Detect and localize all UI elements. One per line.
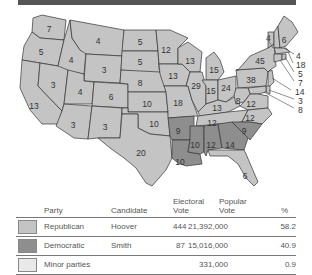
state-label-ny: 45 — [255, 56, 265, 66]
party-name: Republican — [44, 222, 84, 231]
state-label-az: 3 — [71, 120, 76, 130]
header-popular-line2: Vote — [219, 206, 235, 215]
state-label-wv: 8 — [236, 96, 241, 106]
state-label-ne: 8 — [138, 78, 143, 88]
state-label-ia: 13 — [168, 71, 178, 81]
state-label-wy: 3 — [102, 65, 107, 75]
state-label-mn: 12 — [161, 45, 171, 55]
state-label-nm: 3 — [103, 122, 108, 132]
state-label-sc: 9 — [242, 126, 247, 136]
header-popular-line1: Popular — [219, 197, 247, 206]
state-ri — [282, 54, 286, 60]
candidate-name: Smith — [111, 241, 131, 250]
popular-vote: 15,016,000 — [188, 241, 228, 250]
state-label-id: 4 — [69, 55, 74, 65]
electoral-vote: 444 — [173, 222, 186, 231]
party-name: Minor parties — [44, 260, 90, 269]
state-ma — [274, 48, 290, 54]
legend-row-minor-parties: Minor parties 331,000 0.9 — [16, 255, 296, 275]
legend-row-democratic: Democratic Smith 87 15,016,000 40.9 — [16, 236, 296, 255]
state-label-ok: 10 — [149, 119, 159, 129]
state-label-pa: 38 — [246, 75, 256, 85]
callout-label-md: 8 — [298, 105, 303, 115]
state-label-me: 6 — [282, 35, 287, 45]
state-label-il: 29 — [191, 81, 201, 91]
state-label-mo: 18 — [173, 98, 183, 108]
state-label-nc: 12 — [245, 113, 255, 123]
state-label-ca: 13 — [29, 101, 39, 111]
state-label-in: 15 — [206, 86, 216, 96]
state-label-wa: 7 — [47, 24, 52, 34]
candidate-name: Hoover — [111, 222, 137, 231]
header-candidate: Candidate — [111, 206, 147, 215]
state-label-nd: 5 — [138, 37, 143, 47]
header-bar — [18, 0, 296, 5]
header-electoral-line1: Electoral — [173, 197, 204, 206]
header-percent: % — [281, 206, 288, 215]
state-label-tn: 12 — [207, 118, 217, 128]
state-label-tx: 20 — [136, 148, 146, 158]
state-label-ms: 10 — [190, 140, 200, 150]
state-fl — [208, 150, 258, 186]
popular-vote: 331,000 — [199, 260, 228, 269]
party-name: Democratic — [44, 241, 84, 250]
header-party: Party — [44, 206, 63, 215]
state-label-ga: 14 — [225, 140, 235, 150]
legend-header-row: Party Candidate ElectoralVote PopularVot… — [16, 190, 296, 217]
electoral-vote: 87 — [176, 241, 185, 250]
percent: 40.9 — [280, 241, 296, 250]
percent: 0.9 — [285, 260, 296, 269]
state-label-ar: 9 — [176, 126, 181, 136]
republican-swatch — [18, 220, 37, 234]
popular-vote: 21,392,000 — [188, 222, 228, 231]
state-label-mi: 15 — [209, 65, 219, 75]
header-popular-vote: PopularVote — [219, 197, 247, 215]
header-electoral-vote: ElectoralVote — [173, 197, 204, 215]
percent: 58.2 — [280, 222, 296, 231]
state-label-oh: 24 — [221, 83, 231, 93]
state-label-wi: 13 — [185, 56, 195, 66]
state-label-nv: 3 — [51, 80, 56, 90]
state-label-fl: 6 — [243, 171, 248, 181]
state-label-ut: 4 — [78, 87, 83, 97]
state-label-co: 6 — [109, 92, 114, 102]
democratic-swatch — [18, 239, 37, 253]
state-label-mt: 4 — [96, 36, 101, 46]
state-label-ky: 13 — [212, 103, 222, 113]
state-label-al: 12 — [206, 140, 216, 150]
state-label-va: 12 — [246, 99, 256, 109]
us-electoral-map: 7513434346335581010201213189101329151524… — [0, 8, 312, 188]
state-label-sd: 5 — [138, 57, 143, 67]
header-electoral-line2: Vote — [173, 206, 189, 215]
minor-parties-swatch — [18, 258, 37, 272]
state-label-la: 10 — [175, 157, 185, 167]
state-label-or: 5 — [39, 47, 44, 57]
results-legend-table: Party Candidate ElectoralVote PopularVot… — [16, 190, 296, 275]
legend-row-republican: Republican Hoover 444 21,392,000 58.2 — [16, 217, 296, 236]
state-label-ks: 10 — [142, 99, 152, 109]
callout-label-vt: 4 — [266, 33, 271, 43]
